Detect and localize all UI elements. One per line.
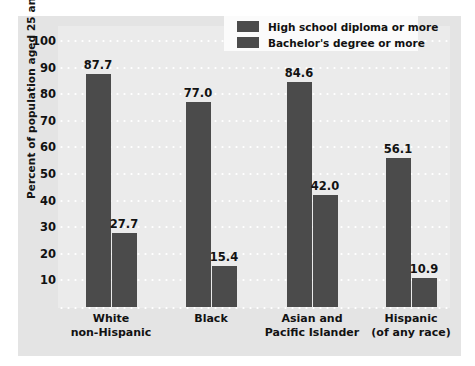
bar	[386, 158, 411, 307]
legend-item-high-school: High school diploma or more	[237, 19, 418, 34]
bar-value-label: 87.7	[76, 58, 120, 72]
x-category-label-line: non-Hispanic	[46, 326, 176, 340]
x-category-label-line: (of any race)	[346, 326, 475, 340]
bar	[112, 233, 137, 307]
legend: High school diploma or more Bachelor's d…	[224, 16, 418, 51]
bar-value-label: 56.1	[376, 142, 420, 156]
legend-item-bachelors: Bachelor's degree or more	[237, 35, 418, 50]
x-category-label-line: Hispanic	[346, 312, 475, 326]
x-category-label: Hispanic(of any race)	[346, 312, 475, 340]
bar	[412, 278, 437, 307]
bar-value-label: 15.4	[202, 250, 246, 264]
bar	[186, 102, 211, 307]
bar	[313, 195, 338, 307]
legend-swatch-bachelors	[237, 37, 259, 48]
bar	[212, 266, 237, 307]
legend-label-bachelors: Bachelor's degree or more	[268, 37, 425, 49]
bar-chart: Percent of population aged 25 and older …	[0, 0, 475, 366]
bar-value-label: 84.6	[277, 66, 321, 80]
legend-label-high-school: High school diploma or more	[268, 21, 438, 33]
bar	[86, 74, 111, 307]
bar-value-label: 42.0	[303, 179, 347, 193]
legend-swatch-high-school	[237, 21, 259, 32]
bar-value-label: 77.0	[176, 86, 220, 100]
bar-value-label: 10.9	[402, 262, 446, 276]
bar-value-label: 27.7	[102, 217, 146, 231]
bar	[287, 82, 312, 307]
